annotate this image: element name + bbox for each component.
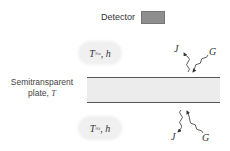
bottom-radiosity-arrow bbox=[178, 110, 183, 132]
top-irradiation-arrow bbox=[193, 55, 208, 72]
top-G-label: G bbox=[209, 46, 216, 57]
bottom-J-label: J bbox=[171, 131, 175, 142]
radiation-arrows bbox=[0, 0, 230, 151]
top-J-label: J bbox=[174, 43, 178, 54]
bottom-G-label: G bbox=[202, 132, 209, 143]
top-radiosity-arrow bbox=[184, 53, 190, 72]
bottom-irradiation-arrow bbox=[187, 111, 203, 133]
